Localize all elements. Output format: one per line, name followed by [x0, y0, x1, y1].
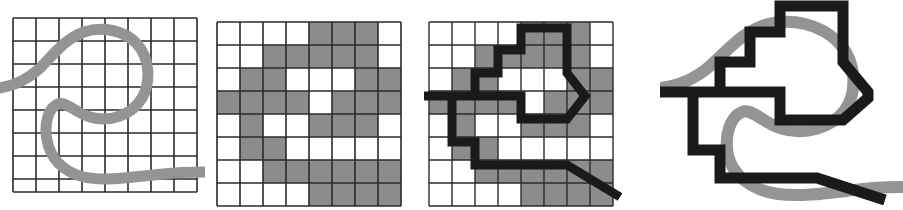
filled-cell	[378, 160, 401, 183]
filled-cell	[590, 68, 613, 91]
panel-traced-polyline-on-cells	[420, 0, 660, 210]
filled-cell	[544, 183, 567, 206]
filled-cell	[263, 137, 286, 160]
panel-original-curve-on-grid	[0, 0, 210, 210]
filled-cell	[355, 114, 378, 137]
filled-cell	[332, 183, 355, 206]
filled-cell	[240, 91, 263, 114]
filled-cell	[332, 45, 355, 68]
filled-cell	[355, 68, 378, 91]
filled-cell	[378, 68, 401, 91]
filled-cell	[286, 91, 309, 114]
filled-cell	[590, 91, 613, 114]
filled-cell	[263, 91, 286, 114]
filled-cell	[355, 45, 378, 68]
filled-cell	[263, 68, 286, 91]
panel-1-grid	[13, 18, 197, 192]
filled-cell	[309, 45, 332, 68]
filled-cell	[378, 183, 401, 206]
filled-cell	[240, 137, 263, 160]
panel-rasterized-cells	[210, 0, 420, 210]
panel-4-canvas	[660, 0, 903, 210]
filled-cell	[240, 114, 263, 137]
filled-cell	[240, 68, 263, 91]
filled-cell	[355, 183, 378, 206]
panel-result-overlay	[660, 0, 903, 210]
filled-cell	[544, 91, 567, 114]
filled-cell	[309, 183, 332, 206]
filled-cell	[332, 160, 355, 183]
filled-cell	[521, 183, 544, 206]
filled-cell	[332, 22, 355, 45]
filled-cell	[217, 91, 240, 114]
filled-cell	[286, 45, 309, 68]
panel-1-canvas	[0, 0, 210, 210]
panel-2-canvas	[210, 0, 420, 210]
filled-cell	[355, 22, 378, 45]
filled-cell	[332, 91, 355, 114]
filled-cell	[355, 160, 378, 183]
filled-cell	[309, 22, 332, 45]
rasterization-figure	[0, 0, 903, 210]
filled-cell	[263, 45, 286, 68]
filled-cell	[309, 114, 332, 137]
filled-cell	[355, 91, 378, 114]
panel-3-canvas	[420, 0, 660, 210]
filled-cell	[378, 91, 401, 114]
filled-cell	[567, 183, 590, 206]
filled-cell	[286, 160, 309, 183]
filled-cell	[332, 114, 355, 137]
filled-cell	[263, 160, 286, 183]
filled-cell	[309, 160, 332, 183]
